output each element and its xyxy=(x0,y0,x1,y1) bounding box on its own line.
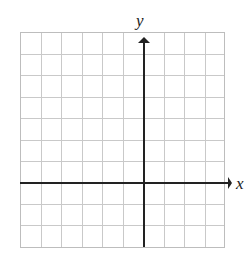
y-axis-label: y xyxy=(136,12,144,29)
coordinate-grid-svg xyxy=(0,0,251,261)
x-axis-arrow-icon xyxy=(228,177,232,189)
grid-background xyxy=(20,32,224,236)
coordinate-plane-figure: y x xyxy=(0,0,251,261)
x-axis-label: x xyxy=(236,175,244,192)
